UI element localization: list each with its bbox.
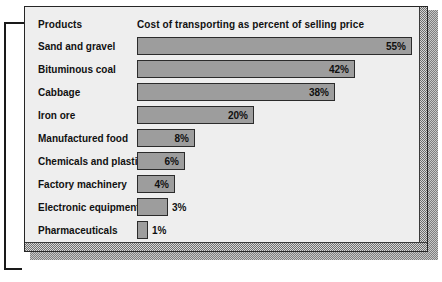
bar-row-label: Chemicals and plastics: [38, 150, 149, 173]
bar: 3%: [137, 198, 168, 216]
bar-value-label: 6%: [165, 153, 179, 171]
bar: 20%: [137, 106, 254, 124]
bar-row: Cabbage38%: [25, 81, 421, 104]
bar-row-label: Manufactured food: [38, 127, 128, 150]
bar-row: Manufactured food8%: [25, 127, 421, 150]
bar: 55%: [137, 37, 412, 55]
column-header-products: Products: [38, 16, 82, 34]
bar-track: 20%: [137, 106, 421, 124]
bar-row: Pharmaceuticals1%: [25, 219, 421, 242]
bar-value-label: 55%: [386, 38, 406, 56]
bar-value-label: 8%: [175, 130, 189, 148]
bar-rows: Sand and gravel55%Bituminous coal42%Cabb…: [25, 35, 421, 242]
outer-bracket-foot: [4, 268, 22, 270]
panel-right-texture-strip: [419, 7, 427, 252]
bar-value-label: 20%: [228, 107, 248, 125]
panel-bottom-texture-strip: [25, 242, 428, 251]
outer-bracket-frame: [4, 22, 24, 270]
bar-row-label: Factory machinery: [38, 173, 127, 196]
bar: 4%: [137, 175, 175, 193]
bar-track: 42%: [137, 60, 421, 78]
bar-track: 38%: [137, 83, 421, 101]
bar-row: Iron ore20%: [25, 104, 421, 127]
bar-value-label: 1%: [152, 222, 166, 240]
bar-row: Factory machinery4%: [25, 173, 421, 196]
bar: 8%: [137, 129, 195, 147]
bar-value-label: 3%: [172, 199, 186, 217]
bar-track: 55%: [137, 37, 421, 55]
bar-track: 4%: [137, 175, 421, 193]
bar-track: 8%: [137, 129, 421, 147]
bar-row-label: Bituminous coal: [38, 58, 116, 81]
bar: 1%: [137, 221, 148, 239]
bar-track: 3%: [137, 198, 421, 216]
bar-track: 6%: [137, 152, 421, 170]
bar-value-label: 38%: [309, 84, 329, 102]
bar-row-label: Electronic equipment: [38, 196, 140, 219]
bar: 6%: [137, 152, 185, 170]
bar: 42%: [137, 60, 355, 78]
chart-header-row: Products Cost of transporting as percent…: [25, 16, 421, 34]
column-header-metric: Cost of transporting as percent of selli…: [137, 16, 364, 34]
bar-row-label: Sand and gravel: [38, 35, 115, 58]
chart-panel: Products Cost of transporting as percent…: [24, 6, 428, 252]
bar-value-label: 42%: [329, 61, 349, 79]
bar-row-label: Iron ore: [38, 104, 75, 127]
bar-row: Sand and gravel55%: [25, 35, 421, 58]
chart-content: Products Cost of transporting as percent…: [25, 7, 421, 244]
bar-row: Bituminous coal42%: [25, 58, 421, 81]
bar: 38%: [137, 83, 335, 101]
bar-row-label: Cabbage: [38, 81, 80, 104]
bar-value-label: 4%: [155, 176, 169, 194]
bar-row: Chemicals and plastics6%: [25, 150, 421, 173]
bar-row: Electronic equipment3%: [25, 196, 421, 219]
bar-track: 1%: [137, 221, 421, 239]
bar-row-label: Pharmaceuticals: [38, 219, 118, 242]
